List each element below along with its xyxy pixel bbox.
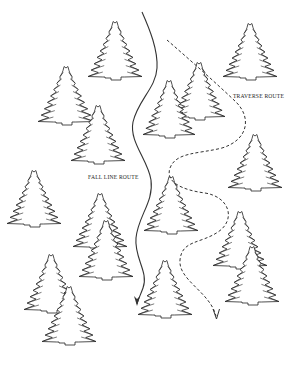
traverse-route-label: TRAVERSE ROUTE [233,93,284,99]
evergreen-tree-icon [228,135,282,192]
ski-route-diagram [0,0,299,366]
evergreen-tree-icon [144,177,198,235]
trees-layer [7,22,282,346]
fall-line-route-label: FALL LINE ROUTE [88,174,139,180]
fall-line-route [132,12,157,304]
evergreen-tree-icon [138,261,192,319]
evergreen-tree-icon [38,67,94,126]
evergreen-tree-icon [7,171,61,228]
evergreen-tree-icon [88,22,142,81]
fall-line-arrowhead-icon [134,296,140,306]
evergreen-tree-icon [223,24,277,81]
traverse-arrowhead-icon [213,309,220,319]
